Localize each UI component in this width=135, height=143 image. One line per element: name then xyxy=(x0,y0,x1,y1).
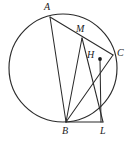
vertex-dots-group xyxy=(98,57,102,61)
point-label-b: B xyxy=(62,126,68,136)
point-label-c: C xyxy=(117,48,124,58)
vertex-dot-h xyxy=(98,57,102,61)
point-label-l: L xyxy=(100,126,106,136)
geometry-canvas xyxy=(0,0,135,143)
point-label-a: A xyxy=(44,2,50,12)
point-label-m: M xyxy=(76,24,84,34)
segment-bc xyxy=(66,55,113,122)
segment-ab xyxy=(50,17,66,122)
point-label-h: H xyxy=(87,50,94,60)
geometry-figure: AMCHBL xyxy=(0,0,135,143)
segment-mb xyxy=(66,38,82,122)
